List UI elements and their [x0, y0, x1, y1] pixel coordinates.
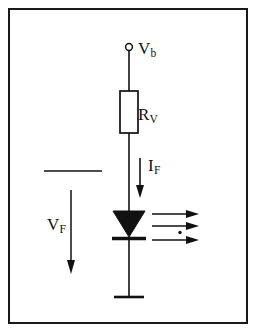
label-resistor-subscript: V: [150, 113, 158, 126]
emitted-light-rays: [152, 210, 199, 244]
label-forward-current: IF: [148, 157, 160, 177]
label-supply-voltage-symbol: V: [138, 39, 150, 58]
label-forward-voltage: VF: [47, 216, 66, 236]
resistor-box: [120, 91, 138, 133]
label-supply-voltage-subscript: b: [150, 47, 156, 60]
light-ray-arrowhead-2: [186, 222, 199, 230]
label-forward-current-subscript: F: [154, 164, 160, 177]
voltage-drop-arrowhead: [67, 260, 75, 274]
label-forward-voltage-subscript: F: [59, 223, 65, 236]
circuit-diagram-figure: Vb RV IF VF: [0, 0, 260, 336]
circuit-schematic-canvas: [0, 0, 260, 336]
open-circle-terminal: [126, 44, 133, 51]
light-ray-arrowhead-1: [186, 210, 199, 218]
label-resistor-symbol: R: [138, 105, 150, 124]
light-ray-dot: [178, 231, 181, 234]
label-resistor: RV: [138, 106, 158, 126]
current-direction-arrowhead: [136, 185, 144, 198]
label-forward-voltage-symbol: V: [47, 215, 59, 234]
label-supply-voltage: Vb: [138, 40, 156, 60]
light-ray-arrowhead-3: [186, 236, 199, 244]
led-diode-triangle: [113, 211, 145, 237]
